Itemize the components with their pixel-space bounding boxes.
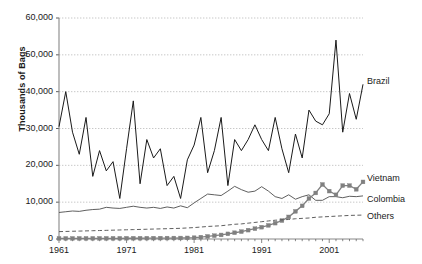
series-marker-vietnam bbox=[287, 215, 291, 219]
series-marker-vietnam bbox=[233, 231, 237, 235]
series-marker-vietnam bbox=[273, 221, 277, 225]
series-marker-vietnam bbox=[77, 236, 81, 240]
series-line-brazil bbox=[59, 40, 363, 198]
series-marker-vietnam bbox=[327, 189, 331, 193]
series-marker-vietnam bbox=[348, 184, 352, 188]
series-marker-vietnam bbox=[192, 236, 196, 240]
series-marker-vietnam bbox=[354, 187, 358, 191]
series-label-others: Others bbox=[367, 211, 394, 221]
series-label-brazil: Brazil bbox=[367, 76, 390, 86]
series-marker-vietnam bbox=[267, 223, 271, 227]
coffee-production-chart: Thousands of Bags 010,00020,00030,00040,… bbox=[0, 0, 422, 264]
series-marker-vietnam bbox=[111, 236, 115, 240]
series-marker-vietnam bbox=[145, 236, 149, 240]
series-marker-vietnam bbox=[91, 236, 95, 240]
series-marker-vietnam bbox=[226, 232, 230, 236]
series-marker-vietnam bbox=[98, 236, 102, 240]
series-marker-vietnam bbox=[280, 219, 284, 223]
series-marker-vietnam bbox=[341, 184, 345, 188]
series-marker-vietnam bbox=[334, 193, 338, 197]
series-marker-vietnam bbox=[118, 236, 122, 240]
data-series-layer bbox=[57, 40, 365, 240]
series-marker-vietnam bbox=[131, 236, 135, 240]
series-marker-vietnam bbox=[219, 233, 223, 237]
series-marker-vietnam bbox=[361, 180, 365, 184]
series-line-others bbox=[59, 215, 363, 232]
series-marker-vietnam bbox=[307, 197, 311, 201]
series-marker-vietnam bbox=[294, 209, 298, 213]
series-marker-vietnam bbox=[57, 237, 61, 241]
series-marker-vietnam bbox=[253, 227, 257, 231]
series-label-vietnam: Vietnam bbox=[367, 173, 400, 183]
series-marker-vietnam bbox=[179, 236, 183, 240]
series-marker-vietnam bbox=[125, 236, 129, 240]
series-marker-vietnam bbox=[84, 236, 88, 240]
series-marker-vietnam bbox=[240, 230, 244, 234]
series-marker-vietnam bbox=[212, 234, 216, 238]
series-marker-vietnam bbox=[138, 236, 142, 240]
series-marker-vietnam bbox=[260, 225, 264, 229]
series-marker-vietnam bbox=[71, 237, 75, 241]
series-marker-vietnam bbox=[321, 183, 325, 187]
series-marker-vietnam bbox=[165, 236, 169, 240]
series-marker-vietnam bbox=[64, 237, 68, 241]
series-marker-vietnam bbox=[152, 236, 156, 240]
series-marker-vietnam bbox=[104, 236, 108, 240]
series-marker-vietnam bbox=[172, 236, 176, 240]
series-marker-vietnam bbox=[185, 236, 189, 240]
plot-area bbox=[0, 0, 422, 264]
series-marker-vietnam bbox=[206, 235, 210, 239]
series-label-colombia: Colombia bbox=[367, 194, 405, 204]
gridlines bbox=[56, 18, 363, 239]
series-marker-vietnam bbox=[158, 236, 162, 240]
series-marker-vietnam bbox=[314, 191, 318, 195]
series-marker-vietnam bbox=[199, 235, 203, 239]
series-marker-vietnam bbox=[246, 228, 250, 232]
series-marker-vietnam bbox=[300, 204, 304, 208]
